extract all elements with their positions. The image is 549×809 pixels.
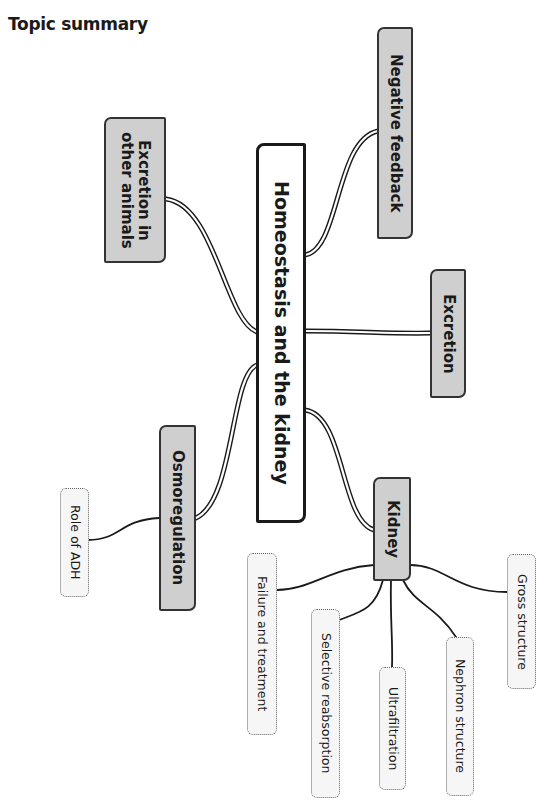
leaf-gross-structure: Gross structure bbox=[507, 554, 536, 689]
leaf-label: Failure and treatment bbox=[255, 576, 269, 711]
link-kidney bbox=[305, 410, 374, 530]
link-gross-structure bbox=[410, 565, 507, 592]
leaf-ultrafiltration: Ultrafiltration bbox=[379, 667, 406, 790]
node-label-line2: other animals bbox=[118, 132, 136, 249]
node-label: Osmoregulation bbox=[169, 450, 186, 585]
leaf-label: Gross structure bbox=[514, 574, 528, 670]
link-excretion-other-animals bbox=[166, 199, 257, 332]
node-negative-feedback: Negative feedback bbox=[377, 27, 413, 239]
leaf-selective-reabsorption: Selective reabsorption bbox=[311, 609, 340, 798]
node-osmoregulation: Osmoregulation bbox=[159, 425, 196, 611]
leaf-label: Nephron structure bbox=[453, 659, 467, 773]
leaf-role-of-adh: Role of ADH bbox=[60, 488, 89, 597]
node-label: Kidney bbox=[383, 500, 400, 558]
link-nephron-structure bbox=[403, 580, 456, 637]
link-negative-feedback bbox=[305, 131, 378, 255]
link-role-of-adh bbox=[88, 518, 159, 540]
node-label: Excretion bbox=[439, 294, 456, 374]
node-label: Excretion in other animals bbox=[118, 132, 153, 249]
link-ultrafiltration bbox=[391, 580, 392, 667]
center-node-homeostasis: Homeostasis and the kidney bbox=[256, 143, 306, 523]
node-excretion: Excretion bbox=[430, 269, 466, 398]
link-failure-treatment bbox=[277, 565, 374, 590]
node-label-line1: Excretion in bbox=[135, 140, 153, 241]
leaf-label: Selective reabsorption bbox=[318, 633, 332, 773]
leaf-label: Role of ADH bbox=[67, 505, 81, 580]
link-excretion bbox=[305, 331, 431, 333]
center-node-label: Homeostasis and the kidney bbox=[270, 181, 292, 485]
node-label: Negative feedback bbox=[386, 54, 403, 212]
link-selective-reabsorption bbox=[339, 580, 383, 620]
link-osmoregulation bbox=[196, 365, 257, 518]
leaf-label: Ultrafiltration bbox=[385, 687, 399, 770]
node-kidney: Kidney bbox=[373, 477, 411, 581]
leaf-failure-and-treatment: Failure and treatment bbox=[247, 553, 277, 735]
node-excretion-other-animals: Excretion in other animals bbox=[104, 117, 166, 263]
leaf-nephron-structure: Nephron structure bbox=[446, 637, 474, 796]
